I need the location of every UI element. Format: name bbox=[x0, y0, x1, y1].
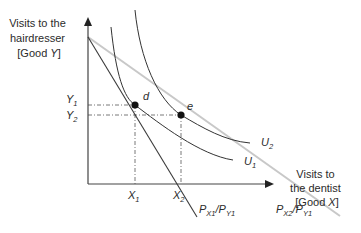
y-tick-y1: Y1 bbox=[66, 93, 78, 108]
curve-u2-label: U2 bbox=[261, 136, 274, 151]
curve-u1-label: U1 bbox=[244, 155, 256, 170]
y-axis-label: Visits to the hairdresser [Good Y] bbox=[9, 17, 69, 59]
x-tick-x2: X2 bbox=[172, 189, 185, 204]
indifference-curve-u1 bbox=[111, 27, 233, 160]
x-axis-arrow-icon bbox=[265, 180, 274, 188]
point-e bbox=[177, 111, 184, 118]
x-axis-label: Visits to the dentist [Good X] bbox=[290, 168, 344, 208]
diagram-canvas: Visits to the hairdresser [Good Y] Visit… bbox=[0, 0, 361, 233]
budget-line-1-label: PX1/PY1 bbox=[199, 203, 235, 218]
x-tick-x1: X1 bbox=[127, 189, 140, 204]
point-d bbox=[131, 101, 138, 108]
y-tick-y2: Y2 bbox=[66, 109, 78, 124]
point-d-label: d bbox=[143, 90, 150, 102]
guide-lines bbox=[88, 105, 181, 184]
y-axis-arrow-icon bbox=[84, 17, 92, 26]
indifference-curve-u2 bbox=[135, 10, 250, 143]
point-e-label: e bbox=[187, 100, 193, 112]
